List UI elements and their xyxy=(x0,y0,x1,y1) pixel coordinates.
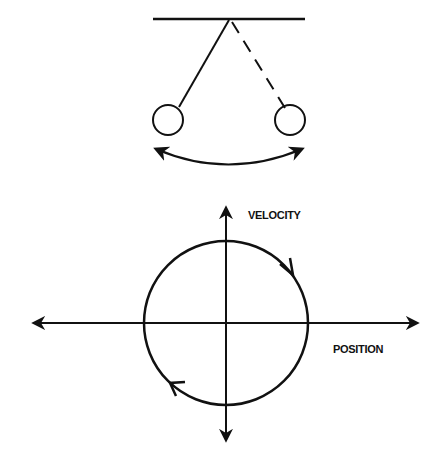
velocity-axis-label: VELOCITY xyxy=(248,209,301,221)
pendulum-bob-right xyxy=(275,105,305,135)
swing-arrow xyxy=(156,149,302,165)
pendulum-string-solid xyxy=(179,20,229,107)
phase-plot xyxy=(34,208,417,440)
pendulum xyxy=(153,19,305,165)
position-axis-label: POSITION xyxy=(333,343,383,355)
pendulum-string-dashed xyxy=(232,22,285,108)
pendulum-bob-left xyxy=(153,105,183,135)
diagram-canvas xyxy=(0,0,438,459)
